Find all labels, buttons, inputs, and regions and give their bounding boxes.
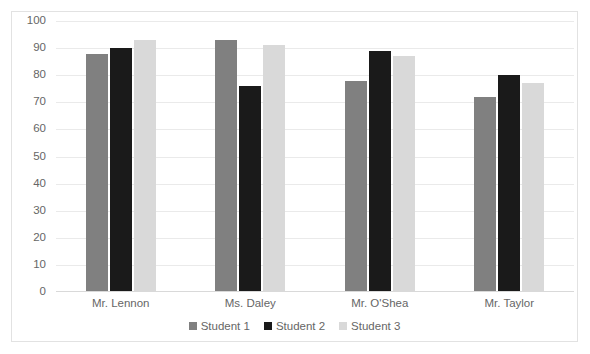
y-axis-tick-label: 20 xyxy=(33,232,46,244)
legend-label: Student 3 xyxy=(351,320,400,332)
bars-layer xyxy=(56,21,574,292)
y-axis-tick-label: 0 xyxy=(40,286,46,298)
chart-container: 1009080706050403020100 Mr. LennonMs. Dal… xyxy=(11,11,578,342)
legend-swatch-icon xyxy=(264,322,272,330)
x-axis-line xyxy=(56,291,574,292)
y-axis-tick-label: 100 xyxy=(27,15,46,27)
y-axis-tick-label: 90 xyxy=(33,42,46,54)
legend-item[interactable]: Student 2 xyxy=(264,320,325,332)
bar-group xyxy=(445,21,575,292)
bar-student-1[interactable] xyxy=(215,40,237,292)
plot-area xyxy=(56,21,574,292)
bar-student-3[interactable] xyxy=(263,45,285,292)
bar-group xyxy=(56,21,186,292)
x-axis-category-label: Mr. O'Shea xyxy=(315,297,445,309)
bar-student-1[interactable] xyxy=(86,54,108,292)
y-axis-tick-label: 60 xyxy=(33,124,46,136)
legend-item[interactable]: Student 3 xyxy=(339,320,400,332)
y-axis-tick-label: 40 xyxy=(33,178,46,190)
y-axis-tick-label: 50 xyxy=(33,151,46,163)
chart-legend: Student 1Student 2Student 3 xyxy=(12,320,577,332)
bar-group xyxy=(186,21,316,292)
x-axis-category-label: Mr. Lennon xyxy=(56,297,186,309)
chart-plot-wrapper: 1009080706050403020100 Mr. LennonMs. Dal… xyxy=(12,12,577,341)
bar-student-2[interactable] xyxy=(498,75,520,292)
bar-student-2[interactable] xyxy=(239,86,261,292)
y-axis-tick-label: 70 xyxy=(33,97,46,109)
legend-item[interactable]: Student 1 xyxy=(189,320,250,332)
y-axis-tick-label: 30 xyxy=(33,205,46,217)
bar-student-1[interactable] xyxy=(345,81,367,292)
y-axis-tick-label: 80 xyxy=(33,69,46,81)
x-axis-labels: Mr. LennonMs. DaleyMr. O'SheaMr. Taylor xyxy=(56,297,574,309)
bar-student-3[interactable] xyxy=(393,56,415,292)
x-axis-category-label: Mr. Taylor xyxy=(445,297,575,309)
legend-swatch-icon xyxy=(189,322,197,330)
legend-label: Student 1 xyxy=(201,320,250,332)
legend-label: Student 2 xyxy=(276,320,325,332)
legend-swatch-icon xyxy=(339,322,347,330)
bar-student-2[interactable] xyxy=(110,48,132,292)
bar-group xyxy=(315,21,445,292)
y-axis-tick-label: 10 xyxy=(33,259,46,271)
bar-student-1[interactable] xyxy=(474,97,496,292)
bar-student-2[interactable] xyxy=(369,51,391,292)
bar-student-3[interactable] xyxy=(522,83,544,292)
x-axis-category-label: Ms. Daley xyxy=(186,297,316,309)
bar-student-3[interactable] xyxy=(134,40,156,292)
y-axis: 1009080706050403020100 xyxy=(12,21,50,292)
